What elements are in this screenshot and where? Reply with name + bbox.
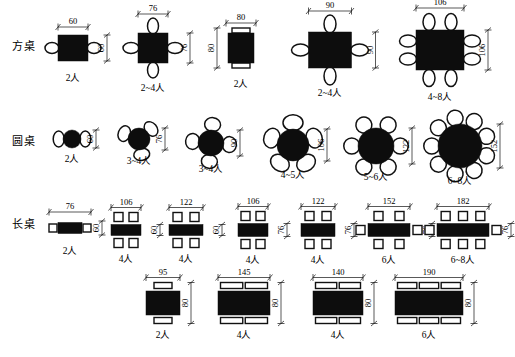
chair-rect — [476, 212, 485, 221]
chair-oval — [424, 138, 440, 154]
row-long-tables-bottom: 95802人145804人140804人190806人 — [144, 267, 478, 340]
long-table-6: 152766人 — [356, 196, 436, 265]
capacity-label: 6~8人 — [448, 176, 473, 186]
dimension-width: 140 — [332, 267, 345, 277]
long-table-bottom-2: 145804人 — [216, 267, 285, 340]
chair-rect — [245, 318, 267, 324]
table-top — [198, 130, 224, 156]
dimension-depth: 60 — [96, 44, 106, 53]
table-top — [277, 129, 309, 161]
capacity-label: 2人 — [63, 246, 78, 256]
seating-dimension-figure: 方桌圆桌长桌60602人76762~4人80802人90902~4人106106… — [0, 0, 515, 357]
dimension-depth: 90 — [365, 46, 375, 55]
dimension-depth: 106 — [477, 44, 487, 57]
chair-rect — [441, 283, 460, 289]
chair-rect — [459, 240, 468, 249]
dimension-width: 122 — [312, 196, 325, 206]
round-table-5: 1225~6人 — [344, 114, 416, 182]
chair-rect — [316, 318, 337, 324]
round-table-2: 763~4人 — [116, 119, 169, 166]
capacity-label: 2人 — [156, 330, 171, 340]
square-table-1: 60602人 — [45, 16, 111, 83]
table-top — [395, 291, 463, 315]
dimension-width: 80 — [237, 12, 246, 22]
square-table-2: 76762~4人 — [123, 3, 194, 93]
table-top — [238, 224, 268, 237]
chair-rect — [322, 240, 331, 249]
chair-rect — [256, 240, 265, 249]
dimension-depth: 80 — [270, 299, 280, 308]
table-top — [138, 33, 168, 63]
dimension-width: 152 — [383, 196, 396, 206]
capacity-label: 4人 — [237, 330, 252, 340]
long-table-2: 106604人 — [109, 197, 164, 264]
table-top — [368, 224, 410, 237]
dimension-width: 106 — [434, 0, 447, 7]
figure-canvas: 方桌圆桌长桌60602人76762~4人80802人90902~4人106106… — [0, 0, 515, 357]
chair-oval — [423, 70, 435, 87]
chair-rect — [245, 283, 267, 289]
dimension-diameter: 122 — [401, 140, 411, 153]
dimension-depth: 60 — [91, 224, 101, 233]
chair-oval — [45, 43, 59, 54]
long-table-3: 122604人 — [167, 197, 226, 264]
capacity-label: 4~8人 — [428, 92, 453, 102]
chair-rect — [305, 240, 314, 249]
chair-rect — [241, 240, 250, 249]
long-table-7: 182766~8人 — [425, 196, 515, 265]
chair-oval — [148, 62, 159, 78]
capacity-label: 6人 — [382, 255, 397, 265]
chair-rect — [398, 283, 417, 289]
capacity-label: 2~4人 — [141, 83, 166, 93]
long-table-bottom-4: 190806人 — [393, 267, 478, 340]
long-table-1: 76602人 — [47, 201, 106, 256]
table-top — [416, 30, 464, 70]
table-top — [358, 128, 394, 164]
table-top — [228, 33, 254, 63]
table-top — [63, 130, 81, 148]
dimension-depth: 76 — [500, 226, 510, 235]
chair-rect — [129, 239, 138, 248]
dimension-depth: 76 — [179, 44, 189, 53]
chair-rect — [441, 240, 450, 249]
capacity-label: 5~6人 — [364, 172, 389, 182]
chair-rect — [190, 239, 199, 248]
chair-rect — [339, 318, 360, 324]
dimension-width: 95 — [159, 267, 168, 277]
capacity-label: 4人 — [246, 255, 261, 265]
dimension-depth: 76 — [343, 226, 353, 235]
row-label-long_top: 长桌 — [12, 218, 36, 230]
dimension-width: 145 — [238, 267, 251, 277]
chair-rect — [49, 224, 57, 232]
round-table-3: 903~4人 — [185, 117, 244, 174]
chair-rect — [114, 213, 123, 222]
table-top — [146, 291, 180, 315]
chair-rect — [316, 283, 337, 289]
row-long-tables-top: 76602人106604人122604人106764人122764人152766… — [47, 196, 515, 265]
table-top — [58, 35, 88, 61]
chair-rect — [232, 63, 250, 68]
chair-oval — [400, 35, 417, 47]
table-top — [111, 225, 141, 236]
dimension-depth: 60 — [149, 226, 159, 235]
capacity-label: 3~4人 — [199, 164, 224, 174]
dimension-width: 60 — [69, 16, 78, 26]
chair-oval — [445, 14, 457, 31]
dimension-depth: 76 — [276, 226, 286, 235]
chair-oval — [400, 53, 417, 65]
long-table-bottom-3: 140804人 — [311, 267, 378, 340]
chair-oval — [324, 67, 336, 85]
dimension-width: 76 — [66, 201, 75, 211]
table-top — [169, 225, 203, 236]
chair-rect — [441, 318, 460, 324]
chair-rect — [425, 226, 434, 235]
chair-rect — [419, 283, 438, 289]
chair-oval — [445, 70, 457, 87]
dimension-width: 182 — [457, 196, 470, 206]
dimension-diameter: 152 — [489, 140, 499, 153]
dimension-width: 90 — [326, 0, 335, 10]
chair-rect — [154, 318, 172, 324]
row-square-tables: 60602人76762~4人80802人90902~4人1061064~8人 — [45, 0, 492, 102]
table-top — [313, 291, 363, 315]
dimension-width: 106 — [247, 196, 260, 206]
